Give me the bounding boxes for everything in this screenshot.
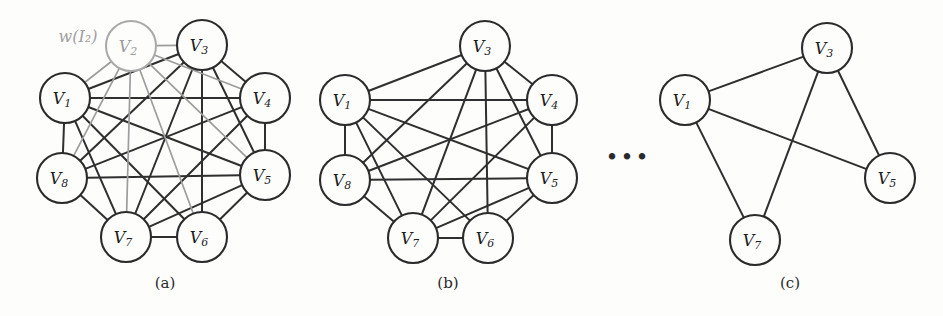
weight-annotation-label: w(I₂)	[59, 27, 98, 46]
graph-node-v8[interactable]: V8	[37, 153, 87, 203]
graph-edge	[506, 195, 534, 221]
graph-edge	[364, 196, 394, 222]
graph-node-v5[interactable]: V5	[865, 153, 915, 203]
graph-figure: V1V2V3V4V5V6V7V8V1V3V4V5V6V7V8V1V3V5V7 w…	[0, 0, 943, 316]
graph-edge	[370, 178, 527, 180]
graph-edge	[63, 123, 64, 153]
graph-edge	[135, 68, 193, 214]
graph-node-v5[interactable]: V5	[527, 153, 577, 203]
graph-edge	[696, 122, 744, 217]
graph-node-v4[interactable]: V4	[527, 75, 577, 125]
panel-caption-c: (c)	[780, 274, 800, 292]
graph-node-v3[interactable]: V3	[177, 20, 227, 70]
graph-edge	[221, 61, 246, 82]
graph-node-v6[interactable]: V6	[177, 212, 227, 262]
graph-node-v7[interactable]: V7	[730, 215, 780, 265]
graph-edge	[368, 55, 461, 91]
graph-node-v2[interactable]: V2	[106, 21, 156, 71]
graph-edge	[127, 71, 131, 212]
panel-c-edges	[696, 57, 879, 218]
graph-edge	[220, 193, 247, 220]
panel-caption-b: (b)	[437, 274, 458, 292]
graph-edge	[85, 107, 241, 169]
graph-edge	[87, 175, 240, 177]
graph-node-v6[interactable]: V6	[463, 213, 513, 263]
graph-edge	[83, 116, 185, 219]
panel-caption-a: (a)	[155, 274, 176, 292]
graph-edge	[485, 71, 487, 213]
graph-edge	[80, 195, 107, 220]
graph-node-v4[interactable]: V4	[240, 73, 290, 123]
graph-edge	[708, 57, 803, 92]
graph-node-v7[interactable]: V7	[388, 213, 438, 263]
graph-edge	[422, 69, 476, 214]
graph-node-v1[interactable]: V1	[40, 73, 90, 123]
graph-edge	[85, 61, 112, 82]
graph-edge	[144, 116, 248, 220]
graph-node-v3[interactable]: V3	[802, 23, 852, 73]
ellipsis-separator: •••	[606, 147, 651, 169]
panel-a-edges	[63, 45, 265, 237]
graph-edge	[764, 71, 818, 216]
graph-edge	[708, 109, 866, 169]
graph-node-v7[interactable]: V7	[101, 212, 151, 262]
graph-edge	[504, 62, 532, 85]
graph-node-v5[interactable]: V5	[240, 150, 290, 200]
graph-edge	[140, 69, 194, 213]
graph-node-v8[interactable]: V8	[320, 155, 370, 205]
graph-node-v1[interactable]: V1	[660, 75, 710, 125]
graph-edge	[838, 71, 879, 156]
graph-node-v1[interactable]: V1	[320, 75, 370, 125]
graph-node-v3[interactable]: V3	[460, 21, 510, 71]
graph-edge	[431, 118, 535, 221]
panel-b-edges	[345, 55, 552, 238]
graph-canvas: V1V2V3V4V5V6V7V8V1V3V4V5V6V7V8V1V3V5V7	[0, 0, 943, 316]
panel-c-nodes: V1V3V5V7	[660, 23, 915, 265]
